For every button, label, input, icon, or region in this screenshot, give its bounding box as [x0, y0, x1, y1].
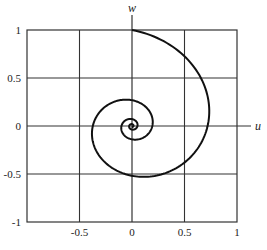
y-tick-label: -1: [12, 216, 21, 228]
y-tick-label: -0.5: [4, 168, 22, 180]
y-tick-labels: 10.50-0.5-1: [4, 24, 22, 228]
y-tick-label: 0.5: [7, 72, 21, 84]
y-tick-label: 1: [16, 24, 22, 36]
x-tick-label: 0: [129, 226, 135, 238]
x-tick-label: -0.5: [71, 226, 89, 238]
spiral-chart: -0.500.51 10.50-0.5-1 u w: [0, 0, 267, 250]
x-tick-labels: -0.500.51: [71, 226, 240, 238]
spiral-curve: [92, 30, 209, 177]
x-tick-label: 1: [234, 226, 240, 238]
y-tick-label: 0: [16, 120, 22, 132]
y-axis-label: w: [128, 1, 136, 15]
x-tick-label: 0.5: [178, 226, 192, 238]
x-axis-label: u: [255, 119, 261, 133]
